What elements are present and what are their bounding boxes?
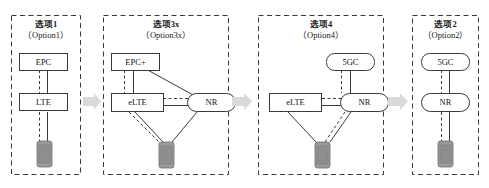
node-label-elte-3x: eLTE	[111, 98, 164, 107]
arrow-3-4-shape	[388, 93, 408, 110]
node-label-nr-2: NR	[421, 98, 470, 107]
link-nr-device-dashed-4	[325, 112, 345, 142]
node-label-epcplus: EPC+	[111, 58, 160, 67]
panel-title-option1: 选项1 （Option1）	[11, 19, 81, 40]
node-device-option1[interactable]	[37, 141, 52, 167]
panel-title-option2-cn: 选项2	[412, 19, 479, 30]
node-device-option4[interactable]	[315, 142, 330, 168]
link-nr-device-solid	[172, 112, 197, 142]
node-label-nr-3x: NR	[187, 98, 236, 107]
link-elte-device-dashed	[129, 112, 159, 142]
panel-title-option3x: 选项3x （Option3x）	[103, 19, 229, 40]
panel-title-option1-cn: 选项1	[11, 19, 81, 30]
node-label-epc: EPC	[19, 58, 68, 67]
panel-title-option2-en: （Option2）	[412, 30, 479, 41]
panel-title-option1-en: （Option1）	[11, 30, 81, 41]
arrow-1-2-shape	[83, 93, 101, 110]
node-device-option2[interactable]	[438, 141, 453, 167]
panel-title-option3x-en: （Option3x）	[103, 30, 229, 41]
migration-path-diagram: 选项1 （Option1） 选项3x （Option3x） 选项4 （Optio…	[0, 0, 489, 188]
panel-title-option4-en: （Option4）	[258, 30, 384, 41]
node-label-elte-4: eLTE	[269, 98, 322, 107]
node-label-nr-4: NR	[340, 98, 389, 107]
link-elte-device-solid	[135, 112, 163, 142]
panel-title-option4-cn: 选项4	[258, 19, 384, 30]
arrow-3-4	[388, 93, 408, 110]
panel-title-option3x-cn: 选项3x	[103, 19, 229, 30]
panel-title-option4: 选项4 （Option4）	[258, 19, 384, 40]
node-label-lte: LTE	[19, 98, 68, 107]
node-device-option3x[interactable]	[159, 142, 174, 168]
arrow-1-2	[83, 93, 101, 110]
node-label-5gc-2: 5GC	[421, 58, 470, 67]
node-label-5gc-4: 5GC	[326, 58, 375, 67]
link-nr-device-solid-4	[330, 112, 351, 142]
panel-title-option2: 选项2 （Option2）	[412, 19, 479, 40]
link-elte-device-solid-4	[288, 112, 316, 142]
link-epcplus-nr-solid	[144, 68, 195, 96]
